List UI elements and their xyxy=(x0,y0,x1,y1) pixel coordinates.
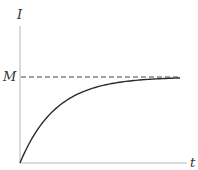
growth-curve xyxy=(20,78,180,163)
y-axis-label: I xyxy=(16,7,23,22)
chart: I t M xyxy=(0,0,198,170)
asymptote-label: M xyxy=(2,69,17,84)
x-axis-label: t xyxy=(190,155,196,170)
